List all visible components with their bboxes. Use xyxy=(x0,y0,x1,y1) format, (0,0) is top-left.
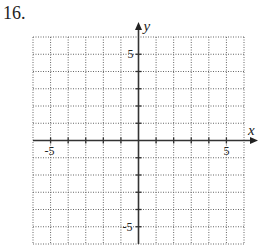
x-axis-label: x xyxy=(247,122,255,138)
y-tick-label-5: 5 xyxy=(128,47,134,61)
x-tick-label-5: 5 xyxy=(223,144,229,158)
axes xyxy=(33,22,258,244)
y-axis-label: y xyxy=(142,18,151,34)
y-tick-label-neg5: -5 xyxy=(123,220,133,234)
coordinate-grid: -5 5 5 -5 x y xyxy=(0,0,264,252)
x-tick-label-neg5: -5 xyxy=(45,144,55,158)
